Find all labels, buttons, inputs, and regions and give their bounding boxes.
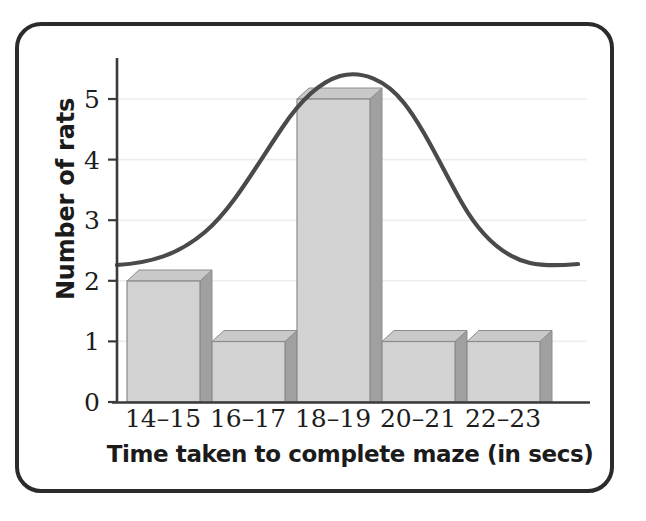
y-tick-label-1: 1 [66, 329, 100, 354]
bar-14-15 [127, 270, 212, 402]
bar-22-23 [467, 331, 552, 403]
chart-figure: 0 1 2 3 4 5 14–15 16–17 18–19 20–21 22–2… [0, 0, 646, 521]
x-tick-label-22-23: 22–23 [448, 406, 558, 431]
bar-20-21 [382, 331, 467, 403]
bar-18-19 [297, 88, 382, 402]
y-axis-title: Number of rats [52, 89, 80, 309]
bar-16-17 [212, 331, 297, 403]
y-tick-marks [108, 99, 117, 402]
y-tick-label-0: 0 [66, 390, 100, 415]
x-axis-title: Time taken to complete maze (in secs) [100, 441, 600, 467]
